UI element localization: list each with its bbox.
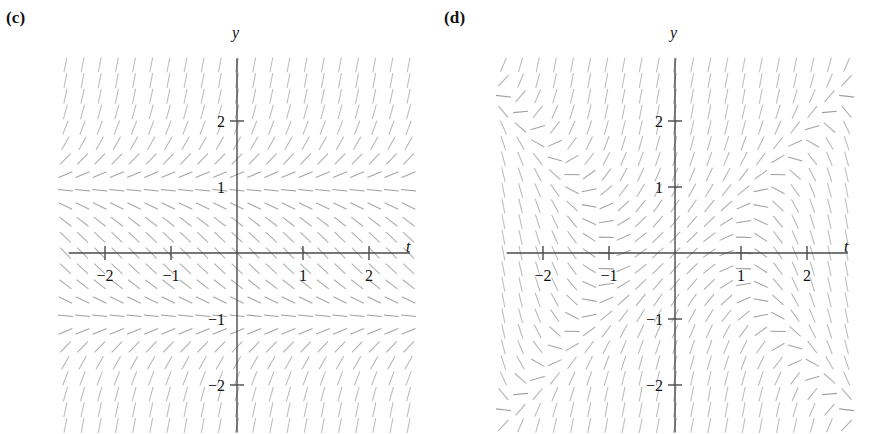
slope-dash	[64, 402, 67, 417]
slope-dash	[601, 311, 613, 321]
slope-dash	[566, 343, 579, 351]
slope-dash	[390, 73, 393, 88]
slope-dash	[725, 89, 728, 104]
slope-dash	[656, 58, 659, 73]
slope-dash	[753, 205, 768, 208]
slope-dash	[339, 58, 342, 73]
slope-dash	[827, 183, 831, 197]
slope-dash	[839, 95, 854, 97]
slope-dash	[319, 137, 326, 150]
slope-dash	[385, 172, 399, 178]
slope-dash	[535, 89, 541, 103]
slope-dash	[707, 340, 712, 354]
panel-d: (d) −2−11221−1−2ty	[438, 0, 876, 434]
slope-dash	[653, 216, 663, 227]
slope-dash	[552, 230, 558, 244]
slope-dash	[759, 58, 762, 73]
slope-dash	[252, 387, 256, 401]
slope-dash	[501, 136, 506, 150]
slope-dash	[772, 295, 783, 305]
slope-dash	[316, 297, 329, 304]
slope-dash	[792, 278, 798, 292]
slope-dash	[788, 157, 802, 161]
slope-dash	[287, 89, 290, 104]
slope-dash	[389, 387, 393, 401]
slope-dash	[618, 295, 629, 305]
slope-dash	[553, 403, 557, 417]
slope-dash	[605, 58, 608, 73]
slope-dash	[270, 73, 273, 88]
slope-dash	[639, 418, 642, 433]
slope-dash	[515, 373, 526, 383]
slope-dash	[806, 140, 819, 147]
slope-dash	[201, 402, 204, 417]
slope-dash	[148, 137, 155, 150]
slope-dash	[792, 105, 798, 119]
slope-dash	[264, 315, 279, 316]
slope-dash	[771, 312, 784, 319]
slope-dash	[402, 297, 415, 304]
slope-dash	[265, 297, 278, 304]
slope-dash	[567, 279, 577, 291]
slope-dash	[720, 218, 733, 226]
slope-dash	[845, 152, 849, 166]
slope-dash	[282, 329, 296, 335]
slope-dash	[535, 403, 541, 417]
slope-dash	[368, 217, 380, 226]
slope-dash	[809, 183, 815, 197]
y-tick-label: 1	[655, 179, 663, 196]
slope-dash	[197, 280, 209, 289]
slope-dash	[320, 121, 325, 135]
slope-dash	[179, 329, 193, 335]
slope-dash	[286, 121, 291, 135]
slope-dash	[827, 308, 831, 322]
slope-dash	[282, 172, 296, 178]
slope-dash	[338, 402, 341, 417]
slope-dash	[565, 312, 578, 319]
slope-dash	[621, 356, 626, 370]
slope-dash	[215, 154, 225, 165]
slope-dash	[827, 58, 831, 72]
slope-dash	[319, 356, 326, 369]
slope-dash	[690, 355, 694, 369]
slope-dash	[150, 73, 153, 88]
slope-dash	[551, 199, 558, 212]
slope-dash	[571, 418, 574, 433]
slope-dash	[720, 234, 734, 240]
slope-dash	[603, 340, 610, 353]
slope-dash	[708, 73, 711, 88]
slope-dash	[587, 371, 592, 385]
slope-dash	[180, 280, 192, 289]
slope-dash	[639, 105, 642, 120]
slope-dash	[605, 402, 608, 417]
slope-dash	[270, 58, 273, 73]
slope-dash	[639, 89, 642, 104]
slope-dash	[582, 314, 597, 317]
slope-dash	[281, 190, 296, 191]
slope-dash	[691, 387, 694, 402]
slope-dash	[337, 371, 342, 385]
slope-dash	[373, 89, 376, 104]
slope-dash	[385, 203, 398, 210]
slope-dash	[656, 418, 659, 433]
slope-dash	[845, 293, 848, 308]
slope-dash	[372, 121, 377, 135]
slope-dash	[708, 371, 711, 386]
slope-dash	[618, 201, 629, 211]
slope-dash	[639, 58, 642, 73]
slope-dash	[369, 232, 380, 242]
slope-dash	[691, 418, 694, 433]
slope-dash	[213, 329, 227, 335]
y-tick-label: −1	[208, 311, 225, 328]
slope-dash	[617, 266, 631, 272]
slope-dash	[60, 232, 71, 242]
slope-dash	[163, 342, 173, 353]
slope-dash	[756, 341, 765, 353]
slope-dash	[519, 58, 523, 72]
slope-dash	[60, 154, 70, 165]
slope-dash	[599, 297, 613, 303]
slope-dash	[703, 264, 715, 273]
slope-dash	[201, 89, 204, 104]
slope-dash	[113, 356, 120, 369]
slope-dash	[843, 372, 849, 386]
